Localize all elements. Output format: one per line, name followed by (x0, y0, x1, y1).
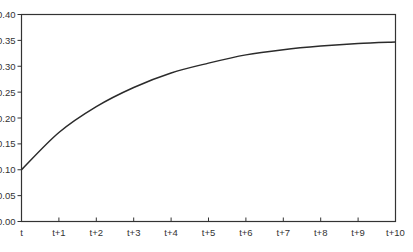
x-tick-label: t+6 (239, 227, 252, 238)
y-tick-label: 0.15 (0, 138, 16, 149)
y-tick-label: 0.05 (0, 190, 16, 201)
y-tick-label: 0.30 (0, 61, 16, 72)
y-tick-label: 0.10 (0, 164, 16, 175)
y-tick-label: 0.35 (0, 35, 16, 46)
x-tick-label: t+2 (90, 227, 103, 238)
y-tick-label: 0.40 (0, 9, 16, 20)
y-axis: 0.000.050.100.150.200.250.300.350.40 (0, 9, 22, 227)
x-tick-label: t+5 (202, 227, 215, 238)
data-line (22, 42, 396, 170)
x-tick-label: t+4 (164, 227, 177, 238)
x-tick-label: t+8 (314, 227, 327, 238)
y-tick-label: 0.20 (0, 113, 16, 124)
x-tick-label: t+10 (386, 227, 405, 238)
line-chart: 0.000.050.100.150.200.250.300.350.40 tt+… (0, 0, 413, 252)
y-tick-label: 0.25 (0, 87, 16, 98)
x-axis: tt+1t+2t+3t+4t+5t+6t+7t+8t+9t+10 (20, 218, 405, 238)
x-tick-label: t+3 (127, 227, 140, 238)
x-tick-label: t+1 (52, 227, 65, 238)
x-tick-label: t (20, 227, 23, 238)
x-tick-label: t+7 (277, 227, 290, 238)
x-tick-label: t+9 (351, 227, 364, 238)
y-tick-label: 0.00 (0, 216, 16, 227)
